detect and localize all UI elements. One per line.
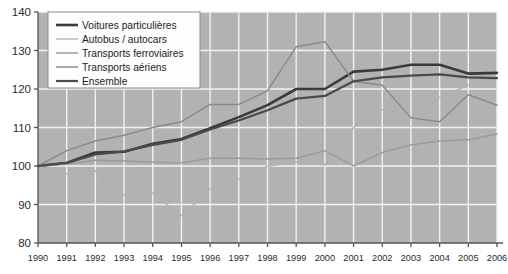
- x-axis-tick-label: 2005: [458, 253, 478, 263]
- x-axis-tick-label: 1990: [28, 253, 48, 263]
- x-axis-tick-label: 2006: [487, 253, 507, 263]
- y-axis-tick-label: 120: [12, 83, 31, 95]
- x-axis-tick-label: 1994: [143, 253, 163, 263]
- x-axis-tick-label: 2003: [401, 253, 421, 263]
- legend-label: Transports aériens: [82, 62, 167, 73]
- y-axis-tick-labels: 1401301201101009080: [12, 6, 31, 249]
- y-axis-tick-label: 130: [12, 45, 31, 57]
- y-axis-tick-label: 80: [18, 237, 31, 249]
- x-axis-tick-label: 1998: [257, 253, 277, 263]
- x-axis-tick-label: 1995: [171, 253, 191, 263]
- x-axis-tick-label: 1991: [56, 253, 76, 263]
- y-axis-tick-label: 90: [18, 199, 31, 211]
- y-axis-tick-label: 100: [12, 160, 31, 172]
- chart-legend: Voitures particulièresAutobus / autocars…: [48, 12, 200, 88]
- legend-label: Transports ferroviaires: [82, 48, 184, 59]
- legend-label: Ensemble: [82, 76, 128, 87]
- x-axis-tick-label: 1993: [114, 253, 134, 263]
- legend-label: Voitures particulières: [82, 20, 177, 31]
- x-axis-tick-label: 1999: [286, 253, 306, 263]
- x-axis-tick-label: 1997: [229, 253, 249, 263]
- y-axis-tick-label: 110: [13, 122, 31, 134]
- chart-canvas: 1401301201101009080 19901991199219931994…: [0, 0, 508, 274]
- x-axis-tick-labels: 1990199119921993199419951996199719981999…: [28, 253, 507, 263]
- x-axis-tick-label: 2004: [429, 253, 449, 263]
- legend-label: Autobus / autocars: [82, 34, 167, 45]
- x-axis-tick-label: 2002: [372, 253, 392, 263]
- line-chart: 1401301201101009080 19901991199219931994…: [0, 0, 508, 274]
- x-axis-tick-label: 1992: [85, 253, 105, 263]
- x-axis-tick-label: 2000: [315, 253, 335, 263]
- x-axis-tick-label: 2001: [343, 253, 363, 263]
- x-axis-tick-label: 1996: [200, 253, 220, 263]
- y-axis-tick-label: 140: [12, 6, 31, 18]
